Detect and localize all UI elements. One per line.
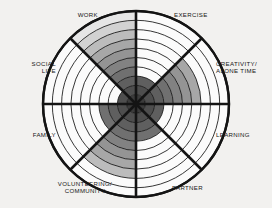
axis-label-line: PARTNER <box>172 184 203 191</box>
axis-label-line: EXERCISE <box>174 11 208 18</box>
axis-label-family[interactable]: FAMILY <box>33 131 56 138</box>
axis-label-creativity-alone-time[interactable]: CREATIVITY/ALONE TIME <box>216 60 257 74</box>
wheel-of-life-chart: EXERCISECREATIVITY/ALONE TIMELEARNINGPAR… <box>0 0 272 208</box>
axis-label-line: LIFE <box>42 67 56 74</box>
axis-label-exercise[interactable]: EXERCISE <box>174 11 208 18</box>
axis-label-line: COMMUNITY <box>65 187 106 194</box>
wheel-svg: EXERCISECREATIVITY/ALONE TIMELEARNINGPAR… <box>0 0 272 208</box>
axis-label-volunteering-community[interactable]: VOLUNTEERING/COMMUNITY <box>58 180 112 194</box>
axis-label-learning[interactable]: LEARNING <box>216 131 250 138</box>
axis-label-line: ALONE TIME <box>216 67 256 74</box>
axis-label-line: SOCIAL <box>32 60 57 67</box>
axis-label-partner[interactable]: PARTNER <box>172 184 203 191</box>
axis-label-line: LEARNING <box>216 131 250 138</box>
axis-label-line: FAMILY <box>33 131 56 138</box>
axis-label-work[interactable]: WORK <box>78 11 98 18</box>
axis-label-line: VOLUNTEERING/ <box>58 180 112 187</box>
axis-label-line: WORK <box>78 11 98 18</box>
axis-label-line: CREATIVITY/ <box>216 60 257 67</box>
